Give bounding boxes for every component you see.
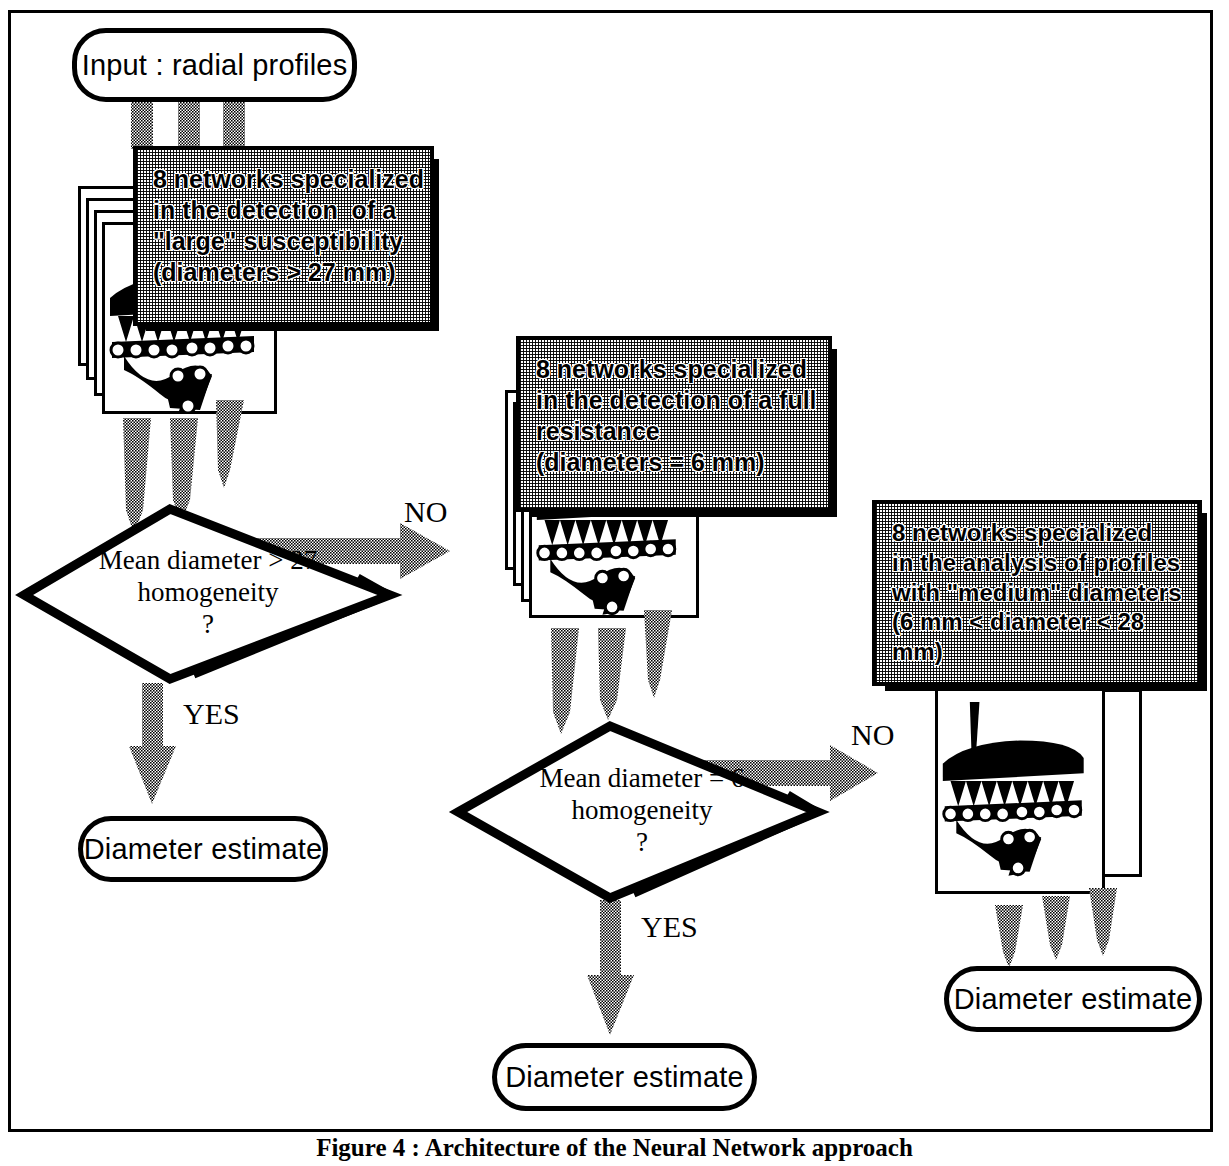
box-shadow-bottom bbox=[146, 322, 439, 331]
edge-label-decision-2-no: NO bbox=[851, 718, 894, 752]
edge-label-decision-1-no-text: NO bbox=[404, 495, 447, 528]
box-shadow-bottom bbox=[529, 508, 837, 517]
node-decision-2[interactable]: Mean diameter = 6 homogeneity ? bbox=[452, 720, 832, 902]
line-4: (6 mm < diameter < 28 bbox=[892, 607, 1182, 637]
node-terminal-2[interactable]: Diameter estimate bbox=[492, 1043, 757, 1111]
edge-networks-3-to-terminal-3 bbox=[995, 888, 1117, 968]
node-terminal-3-label: Diameter estimate bbox=[954, 983, 1193, 1016]
figure-canvas: Input : radial profiles 8 networ bbox=[0, 0, 1229, 1166]
node-decision-1[interactable]: Mean diameter > 27 homogeneity ? bbox=[18, 503, 398, 683]
line-2: in the detection of a bbox=[153, 195, 414, 226]
box-shadow-right bbox=[1198, 513, 1207, 691]
line-2: in the analysis of profiles bbox=[892, 548, 1182, 578]
box-shadow-right bbox=[430, 159, 439, 331]
node-network-box-2[interactable]: 8 networks specialized in the detection … bbox=[516, 336, 832, 512]
edge-label-decision-1-no: NO bbox=[404, 495, 447, 529]
node-network-box-1[interactable]: 8 networks specialized in the detection … bbox=[133, 146, 434, 326]
node-terminal-2-label: Diameter estimate bbox=[505, 1061, 744, 1094]
line-3: "large" susceptibility bbox=[153, 226, 414, 257]
line-1: 8 networks specialized bbox=[536, 354, 812, 385]
edge-label-decision-2-yes: YES bbox=[641, 910, 698, 944]
edge-decision-1-yes bbox=[129, 683, 176, 804]
node-input[interactable]: Input : radial profiles bbox=[72, 28, 357, 102]
edge-networks-2-to-decision-2 bbox=[551, 610, 672, 734]
node-input-label: Input : radial profiles bbox=[82, 49, 348, 82]
line-2: in the detection of a full bbox=[536, 385, 812, 416]
node-network-box-2-text: 8 networks specialized in the detection … bbox=[536, 354, 812, 478]
line-3: with "medium" diameters bbox=[892, 578, 1182, 608]
line-4: (diameters = 6 mm) bbox=[536, 447, 812, 478]
node-terminal-3[interactable]: Diameter estimate bbox=[944, 966, 1202, 1032]
box-shadow-bottom bbox=[885, 682, 1207, 691]
line-3: resistance bbox=[536, 416, 812, 447]
node-terminal-1[interactable]: Diameter estimate bbox=[78, 816, 328, 882]
line-1: 8 networks specialized bbox=[892, 518, 1182, 548]
edge-label-decision-1-yes: YES bbox=[183, 697, 240, 731]
line-4: (diameters > 27 mm) bbox=[153, 257, 414, 288]
edge-label-decision-2-no-text: NO bbox=[851, 718, 894, 751]
line-1: 8 networks specialized bbox=[153, 164, 414, 195]
node-terminal-1-label: Diameter estimate bbox=[84, 833, 323, 866]
edge-decision-2-yes bbox=[587, 900, 634, 1035]
line-5: mm) bbox=[892, 637, 1182, 667]
node-network-box-3[interactable]: 8 networks specialized in the analysis o… bbox=[872, 500, 1202, 686]
edge-label-decision-2-yes-text: YES bbox=[641, 910, 698, 943]
edge-input-to-networks-1 bbox=[131, 101, 245, 149]
box-shadow-right bbox=[828, 349, 837, 517]
node-network-box-3-text: 8 networks specialized in the analysis o… bbox=[892, 518, 1182, 667]
edge-label-decision-1-yes-text: YES bbox=[183, 697, 240, 730]
node-network-box-1-text: 8 networks specialized in the detection … bbox=[153, 164, 414, 288]
